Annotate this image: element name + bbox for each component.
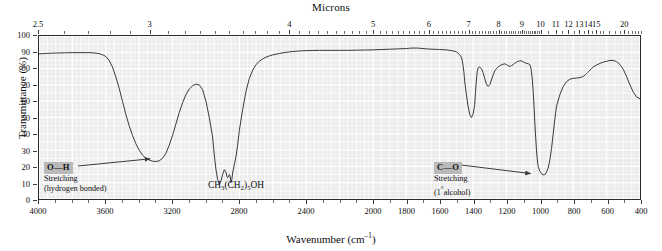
annotation-arrows [0, 0, 662, 251]
ir-spectrum-figure: Microns Transmittance (%) Wavenumber (cm… [0, 0, 662, 251]
annotation-oh-line2: (hydrogen bonded) [44, 184, 107, 195]
annotation-co-line2: (1°alcohol) [434, 184, 470, 198]
annotation-oh-line1: Stretching [44, 174, 107, 185]
annotation-co-chip: C—O [434, 162, 462, 174]
sample-formula: CH3(CH2)5OH [208, 180, 264, 190]
annotation-co-line1: Stretching [434, 174, 470, 185]
annotation-co-stretch: C—O Stretching (1°alcohol) [434, 162, 470, 198]
annotation-oh-chip: O—H [44, 162, 73, 174]
annotation-oh-stretch: O—H Stretching (hydrogen bonded) [44, 162, 107, 195]
